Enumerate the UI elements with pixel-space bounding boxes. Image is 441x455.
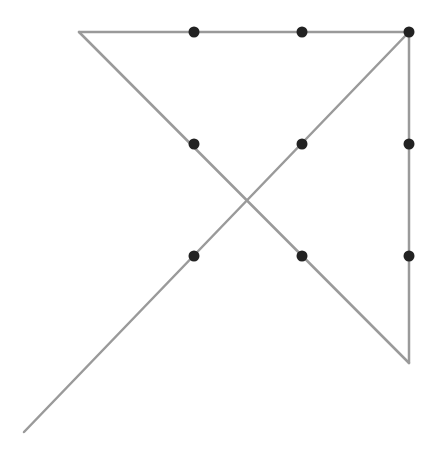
dot-9 (404, 251, 415, 262)
solution-line-4 (24, 32, 409, 432)
solution-lines (24, 32, 409, 432)
dot-4 (189, 139, 200, 150)
dot-6 (404, 139, 415, 150)
dot-5 (297, 139, 308, 150)
dot-7 (189, 251, 200, 262)
dot-3 (404, 27, 415, 38)
dot-1 (189, 27, 200, 38)
dot-8 (297, 251, 308, 262)
puzzle-diagram (0, 0, 441, 455)
dot-2 (297, 27, 308, 38)
